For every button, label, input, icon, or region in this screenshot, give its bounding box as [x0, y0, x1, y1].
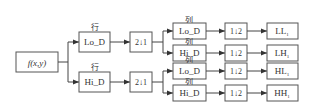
arrow-head-icon [73, 80, 79, 85]
arrow-head-icon [167, 29, 173, 34]
row-downsample-label: 2↓1 [135, 78, 147, 87]
column-downsample-label: 1↓2 [230, 49, 242, 58]
row-branch-low: 行Lo_D2↓1 [68, 22, 163, 54]
row-filter-label: Hi_D [85, 77, 106, 87]
column-branch: 列Hi_D1↓2LH1 [163, 37, 298, 61]
column-branch: 列Lo_D1↓2LL1 [163, 15, 298, 39]
arrow-head-icon [167, 91, 173, 96]
output-name: HL [275, 66, 287, 76]
arrow-head-icon [124, 80, 130, 85]
row-label: 行 [91, 22, 99, 32]
output-name: LL [275, 26, 286, 36]
arrow-head-icon [219, 51, 225, 56]
arrow-head-icon [261, 51, 267, 56]
arrow-head-icon [261, 91, 267, 96]
arrow-head-icon [219, 91, 225, 96]
column-downsample-label: 1↓2 [230, 27, 242, 36]
arrow-head-icon [124, 40, 130, 45]
column-downsample-label: 1↓2 [230, 89, 242, 98]
row-label: 行 [91, 62, 99, 72]
column-branch: 列Hi_D1↓2HH1 [163, 77, 298, 101]
arrow-head-icon [167, 51, 173, 56]
arrow-head-icon [219, 69, 225, 74]
arrow-head-icon [261, 29, 267, 34]
arrow-head-icon [261, 69, 267, 74]
row-downsample-label: 2↓1 [135, 38, 147, 47]
arrow-head-icon [167, 69, 173, 74]
row-filter-label: Lo_D [84, 37, 105, 47]
arrow-head-icon [73, 40, 79, 45]
output-name: LH [275, 48, 287, 58]
input-label: f(x,y) [28, 58, 47, 68]
row-branch-high: 行Hi_D2↓1 [68, 62, 163, 94]
input-block: f(x,y) [16, 52, 58, 72]
column-downsample-label: 1↓2 [230, 67, 242, 76]
output-name: HH [274, 88, 287, 98]
column-filter-label: Lo_D [179, 26, 200, 36]
wavelet-decomposition-diagram: f(x,y) 行Lo_D2↓1行Hi_D2↓1 列Lo_D1↓2LL1列Hi_D… [0, 0, 310, 110]
arrow-head-icon [219, 29, 225, 34]
column-filter-label: Hi_D [180, 88, 201, 98]
column-filter-label: Lo_D [179, 66, 200, 76]
